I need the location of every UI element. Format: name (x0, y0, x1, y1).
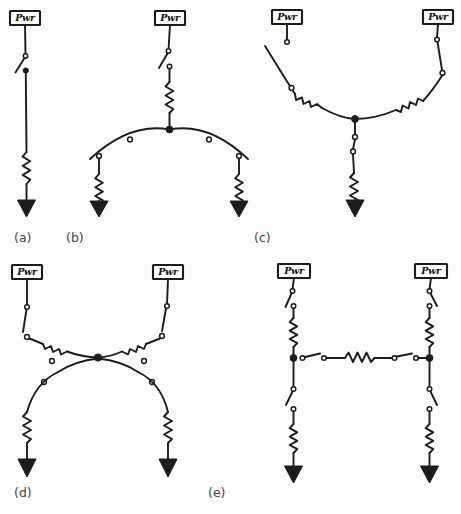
pwr-label: Pwr (159, 12, 181, 23)
panel-b-arc-tap-left (128, 137, 133, 142)
panel-b-center-node (166, 126, 173, 133)
panel-e-tie-switch-left-terminal-a (300, 356, 305, 361)
panel-c-out-lead-to-resistor (353, 154, 354, 173)
panel-b-power-source[interactable]: Pwr (155, 11, 185, 25)
panel-c-left-bus-tap (289, 86, 294, 91)
panel-d-power-source-right[interactable]: Pwr (153, 265, 183, 279)
panel-c-right-switch-terminal-upper (435, 37, 440, 42)
panel-d-right-switch-terminal-upper (165, 304, 170, 309)
panel-a-power-source[interactable]: Pwr (10, 11, 40, 25)
panel-e-left-switch2-terminal-upper (291, 387, 296, 392)
canvas-background (0, 0, 461, 514)
pwr-label: Pwr (283, 265, 305, 276)
panel-label-b: (b) (66, 230, 84, 245)
pwr-label: Pwr (157, 266, 179, 277)
pwr-label: Pwr (276, 11, 298, 22)
panel-d-right-lead-source (167, 279, 168, 304)
panel-label-d: (d) (14, 485, 32, 500)
panel-d-left-switch-terminal-upper (25, 305, 30, 310)
pwr-label: Pwr (427, 11, 449, 22)
panel-a-lead-source-to-switch (25, 25, 26, 55)
panel-d-power-source-left[interactable]: Pwr (12, 265, 42, 279)
pwr-label: Pwr (14, 12, 36, 23)
panel-a-lead-switch-to-resistor (26, 73, 27, 152)
panel-e-right-switch1-terminal-upper (427, 289, 432, 294)
panel-e-right-switch2-terminal-upper (427, 387, 432, 392)
panel-label-a: (a) (14, 230, 31, 245)
panel-e-power-source-right[interactable]: Pwr (415, 264, 447, 278)
panel-e-left-switch1-terminal-upper (290, 289, 295, 294)
circuit-diagram-canvas: Pwr (a) Pwr (0, 0, 461, 514)
panel-c-right-lead-source (437, 24, 438, 37)
panel-c-power-source-left[interactable]: Pwr (272, 10, 302, 24)
panel-label-c: (c) (254, 230, 271, 245)
pwr-label: Pwr (420, 265, 442, 276)
panel-e-power-source-left[interactable]: Pwr (278, 264, 310, 278)
pwr-label: Pwr (16, 266, 38, 277)
panel-d-lower-right-tap (142, 359, 147, 364)
panel-d-center-node (94, 354, 101, 361)
panel-label-e: (e) (208, 485, 225, 500)
panel-b-arc-tap-right (207, 137, 212, 142)
figure-root: Pwr (a) Pwr (0, 0, 461, 514)
switch-terminal-lower (167, 64, 171, 68)
panel-c-power-source-right[interactable]: Pwr (423, 10, 453, 24)
panel-d-lower-left-tap (50, 359, 55, 364)
switch-terminal-upper (166, 49, 170, 53)
panel-c-left-switch-terminal (285, 40, 290, 45)
